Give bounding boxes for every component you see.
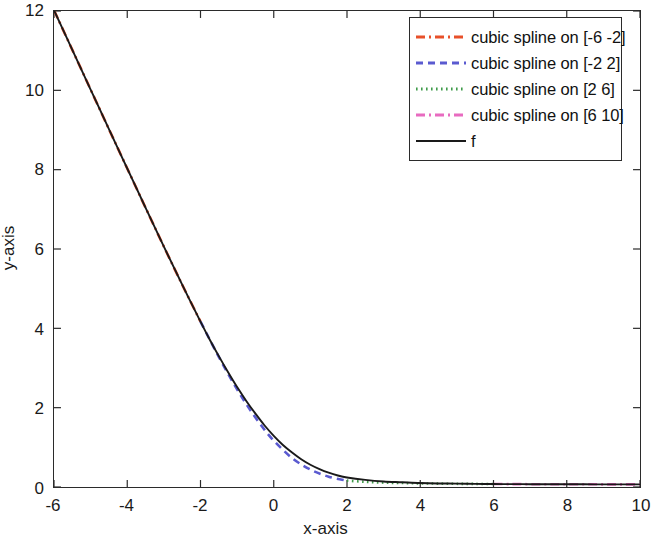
legend-item-label: cubic spline on [-2 2] (471, 54, 620, 73)
y-tick-label: 10 (0, 81, 44, 98)
x-tick-label: 4 (416, 497, 425, 514)
y-axis-title: y-axis (0, 208, 19, 288)
legend-item[interactable]: f (415, 128, 614, 154)
legend-item-label: f (471, 132, 475, 151)
x-tick-label: 2 (342, 497, 351, 514)
legend-item[interactable]: cubic spline on [2 6] (415, 76, 614, 102)
x-tick-label: 10 (632, 497, 651, 514)
y-tick-label: 0 (0, 480, 44, 497)
y-tick-label: 8 (0, 161, 44, 178)
legend-item[interactable]: cubic spline on [-6 -2] (415, 24, 614, 50)
legend-item[interactable]: cubic spline on [-2 2] (415, 50, 614, 76)
y-tick-label: 12 (0, 2, 44, 19)
legend-item-label: cubic spline on [6 10] (471, 106, 624, 125)
x-tick-label: -2 (192, 497, 207, 514)
x-tick-label: -6 (45, 497, 60, 514)
line-sample-dashdot-magenta (415, 108, 467, 122)
line-sample-solid-black (415, 134, 467, 148)
y-tick-label: 2 (0, 400, 44, 417)
line-sample-dashed-blue (415, 56, 467, 70)
x-tick-label: 0 (269, 497, 278, 514)
x-tick-label: 6 (489, 497, 498, 514)
chart-legend: cubic spline on [-6 -2]cubic spline on [… (409, 17, 622, 161)
legend-item-label: cubic spline on [2 6] (471, 80, 615, 99)
line-sample-dotted-green (415, 82, 467, 96)
line-sample-dashdot-red (415, 30, 467, 44)
legend-item[interactable]: cubic spline on [6 10] (415, 102, 614, 128)
series-line (201, 322, 348, 481)
legend-item-label: cubic spline on [-6 -2] (471, 28, 626, 47)
x-axis-title: x-axis (0, 519, 651, 539)
figure-canvas: 024681012 -6-4-20246810 x-axis y-axis cu… (0, 0, 651, 549)
x-tick-label: 8 (563, 497, 572, 514)
x-tick-label: -4 (119, 497, 134, 514)
y-tick-label: 4 (0, 320, 44, 337)
